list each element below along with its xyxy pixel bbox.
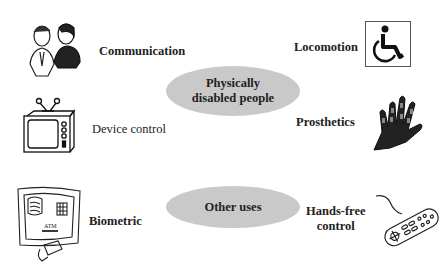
remote-control-icon [376,194,442,250]
hands-free-line2: control [306,219,366,234]
prosthetics-label: Prosthetics [296,115,355,130]
hands-free-label: Hands-free control [306,204,366,234]
robotic-hand-icon [360,90,426,156]
communication-label: Communication [99,44,185,59]
television-icon [22,98,78,156]
device-control-label: Device control [92,122,166,137]
svg-text:ATM: ATM [44,223,57,229]
physically-disabled-node: Physically disabled people [166,66,300,116]
physically-disabled-line1: Physically [192,76,274,91]
other-uses-node: Other uses [166,186,300,228]
physically-disabled-line2: disabled people [192,91,274,106]
locomotion-label: Locomotion [294,40,358,55]
wheelchair-icon [365,21,411,67]
two-people-talking-icon [26,22,82,80]
other-uses-label: Other uses [204,200,261,215]
biometric-label: Biometric [89,214,142,229]
hands-free-line1: Hands-free [306,204,366,219]
atm-machine-icon: ATM [14,183,84,263]
